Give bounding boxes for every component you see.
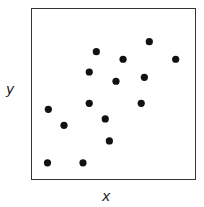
- y-axis-label: y: [6, 81, 14, 97]
- data-point: [141, 74, 148, 81]
- data-point: [146, 38, 153, 45]
- data-point: [79, 159, 86, 166]
- scatter-points: [0, 0, 204, 207]
- data-point: [60, 122, 67, 129]
- x-axis-label: x: [102, 188, 110, 204]
- data-point: [102, 115, 109, 122]
- data-point: [44, 159, 51, 166]
- data-point: [172, 56, 179, 63]
- data-point: [106, 137, 113, 144]
- data-point: [86, 100, 93, 107]
- data-point: [45, 106, 52, 113]
- data-point: [86, 68, 93, 75]
- data-point: [112, 78, 119, 85]
- data-point: [138, 100, 145, 107]
- data-point: [119, 56, 126, 63]
- data-point: [93, 48, 100, 55]
